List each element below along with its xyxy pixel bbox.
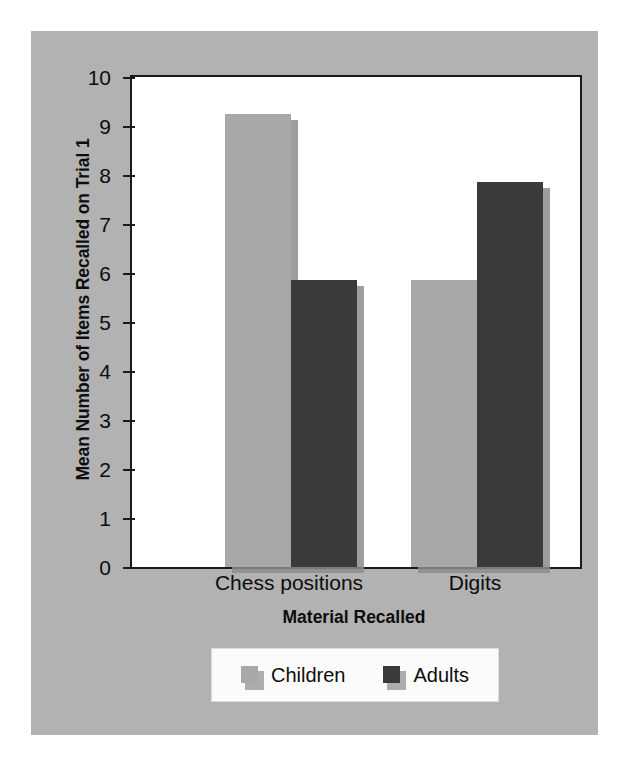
y-axis-tick: 8 [123, 175, 135, 177]
y-axis-tick-label: 5 [99, 312, 111, 334]
chart-legend: Children Adults [211, 648, 499, 702]
legend-item-children: Children [241, 664, 345, 687]
y-axis-tick: 10 [123, 77, 135, 79]
legend-swatch-adults-icon [383, 666, 402, 685]
bar-children-chess-positions [225, 114, 291, 567]
y-axis-tick-label: 4 [99, 361, 111, 383]
y-axis-tick: 4 [123, 371, 135, 373]
y-axis-tick: 5 [123, 322, 135, 324]
figure-root: Mean Number of Items Recalled on Trial 1… [0, 0, 628, 765]
y-axis-tick-label: 3 [99, 410, 111, 432]
bar-adults-chess-positions [291, 280, 357, 567]
legend-item-adults: Adults [383, 664, 469, 687]
y-axis-tick-label: 0 [99, 557, 111, 579]
bar-adults-digits [477, 182, 543, 567]
y-axis-tick-label: 7 [99, 214, 111, 236]
y-axis-tick-label: 9 [99, 116, 111, 138]
x-axis-label-chess-positions: Chess positions [183, 571, 395, 595]
x-axis-label-digits: Digits [369, 571, 581, 595]
y-axis-tick: 7 [123, 224, 135, 226]
y-axis-tick-label: 10 [88, 67, 111, 89]
legend-label-children: Children [271, 664, 345, 687]
y-axis-tick: 1 [123, 518, 135, 520]
legend-swatch-children-icon [241, 666, 260, 685]
bar-children-digits [411, 280, 477, 567]
y-axis-tick-label: 6 [99, 263, 111, 285]
y-axis-tick: 0 [123, 567, 135, 569]
y-axis-tick: 2 [123, 469, 135, 471]
legend-label-adults: Adults [413, 664, 469, 687]
x-axis-title: Material Recalled [130, 607, 578, 628]
y-axis-tick-label: 8 [99, 165, 111, 187]
figure-panel: Mean Number of Items Recalled on Trial 1… [31, 31, 598, 735]
y-axis-title: Mean Number of Items Recalled on Trial 1 [73, 110, 94, 510]
y-axis-tick: 3 [123, 420, 135, 422]
plot-area: 109876543210 [130, 75, 582, 569]
y-axis-tick-label: 2 [99, 459, 111, 481]
y-axis-tick: 6 [123, 273, 135, 275]
y-axis-tick: 9 [123, 126, 135, 128]
y-axis-tick-label: 1 [99, 508, 111, 530]
